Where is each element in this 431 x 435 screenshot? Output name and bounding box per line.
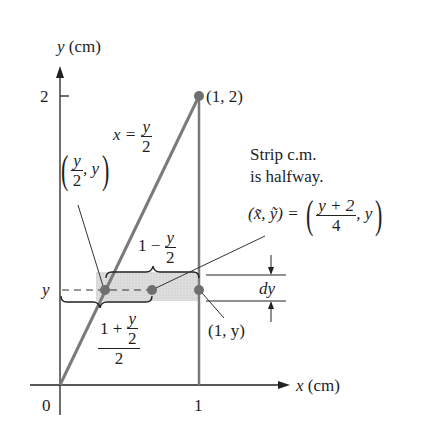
annotation-line1: Strip c.m. [250,146,317,163]
x-axis-label: x (cm) [296,377,340,394]
point-left-label: (y2, y) [58,150,112,190]
point-cm [147,285,157,295]
x-tick-label: 1 [194,397,203,414]
point-left [100,285,110,295]
x-axis-arrow-icon [278,381,290,389]
point-top [194,91,204,101]
strip-length-label: 1 − y2 [138,229,176,266]
dy-arrow-down-icon [268,267,274,275]
origin-label: 0 [42,397,51,414]
cm-formula: (x̃, ỹ) = (y + 24, y) [248,195,386,235]
y-tick-label: 2 [40,88,49,105]
y-strip-label: y [42,281,50,298]
dy-label: dy [259,280,275,297]
point-right [194,285,204,295]
point-right-label: (1, y) [208,322,245,339]
annotation-line2: is halfway. [250,168,324,185]
y-axis-arrow-icon [56,66,64,78]
strip-half-label: 1 + y2 2 [98,310,140,367]
dy-arrow-up-icon [268,301,274,309]
point-top-label: (1, 2) [206,88,243,105]
curve-equation: x = y2 [113,118,152,155]
y-axis-label: y y (cm)(cm) [57,38,101,55]
